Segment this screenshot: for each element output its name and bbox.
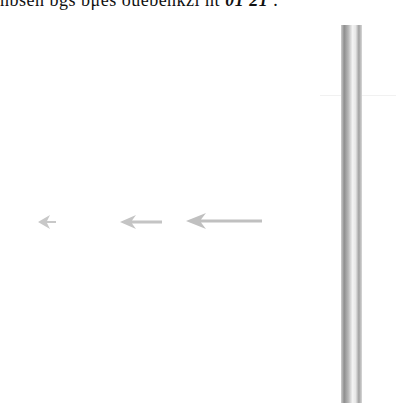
- header-bold-number: 01 21: [225, 0, 268, 10]
- arrow-left-large-icon: [184, 210, 264, 232]
- header-text: nbsen bgs bμes ouebenkzl nt: [0, 0, 225, 10]
- vertical-bar: [341, 25, 362, 403]
- arrow-left-medium-icon: [118, 212, 164, 232]
- header-trailing-mark: .: [268, 0, 278, 10]
- arrow-left-small-icon: [36, 212, 60, 232]
- clipped-header-text: nbsen bgs bμes ouebenkzl nt 01 21 .: [0, 0, 396, 11]
